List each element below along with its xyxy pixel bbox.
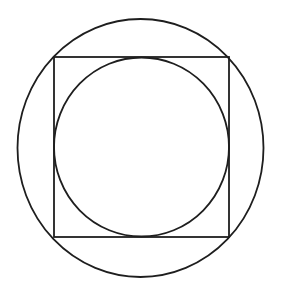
inner-circle: [54, 58, 229, 237]
geometry-diagram: [0, 0, 282, 295]
diagram-canvas: [0, 0, 282, 295]
